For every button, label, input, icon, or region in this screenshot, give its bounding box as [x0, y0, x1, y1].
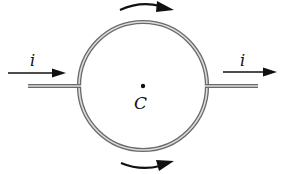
arrowhead-icon [263, 68, 277, 77]
output-current-arrow [223, 68, 277, 77]
current-out-label: i [240, 51, 245, 70]
top-curved-arrow [120, 1, 174, 12]
circuit-diagram: i i C [0, 0, 283, 174]
bottom-curved-arrow [121, 160, 174, 171]
current-in-label: i [30, 51, 35, 70]
arrowhead-icon [156, 160, 174, 171]
center-point [141, 84, 145, 88]
arrowhead-icon [52, 69, 66, 78]
center-label: C [134, 93, 147, 113]
input-current-arrow [8, 69, 66, 78]
arrowhead-icon [156, 1, 174, 12]
